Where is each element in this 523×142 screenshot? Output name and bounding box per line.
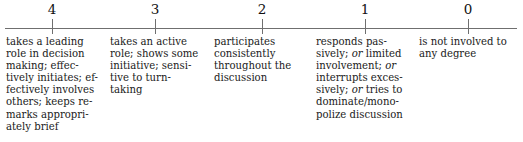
tick-mark-3 bbox=[155, 19, 156, 34]
scale-axis: 4 3 2 1 0 bbox=[0, 0, 523, 36]
descriptor-text-3: takes an activerole; shows someinitiativ… bbox=[110, 36, 210, 96]
tick-label-2: 2 bbox=[248, 2, 276, 17]
tick-label-3: 3 bbox=[141, 2, 169, 17]
rating-scale-figure: 4 3 2 1 0 takes a leadingrole in decisio… bbox=[0, 0, 523, 142]
tick-mark-1 bbox=[365, 19, 366, 34]
descriptor-row: takes a leadingrole in decisionmaking; e… bbox=[0, 36, 523, 142]
tick-mark-4 bbox=[52, 19, 53, 34]
tick-label-1: 1 bbox=[351, 2, 379, 17]
descriptor-text-4: takes a leadingrole in decisionmaking; e… bbox=[6, 36, 107, 133]
tick-mark-0 bbox=[468, 19, 469, 34]
descriptor-text-0: is not involved toany degree bbox=[419, 36, 520, 60]
tick-label-4: 4 bbox=[38, 2, 66, 17]
tick-mark-2 bbox=[262, 19, 263, 34]
axis-line bbox=[5, 28, 517, 29]
tick-label-0: 0 bbox=[454, 2, 482, 17]
descriptor-text-1: responds pas-sively; or limitedinvolveme… bbox=[316, 36, 417, 121]
descriptor-text-2: participatesconsistentlythroughout thedi… bbox=[214, 36, 314, 84]
